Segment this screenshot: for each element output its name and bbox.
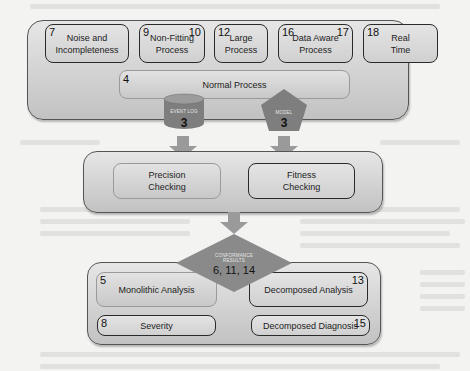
event-log-number: 3 [163, 116, 205, 130]
arrow-down-icon [220, 212, 248, 234]
box-number: 9 [143, 27, 149, 38]
severity-box: 8 Severity [97, 315, 216, 336]
event-log-cylinder: EVENT LOG 3 [163, 93, 205, 131]
box-number: 10 [189, 27, 201, 38]
box-label: Precision Checking [142, 169, 192, 193]
decomposed-diagnosis-box: 15 Decomposed Diagnosis [251, 315, 370, 336]
box-number: 13 [352, 275, 364, 286]
box-number: 18 [367, 27, 379, 38]
box-number: 12 [218, 27, 230, 38]
fitness-checking-box: Fitness Checking [248, 163, 355, 199]
data-aware-process-box: 16 17 Data Aware Process [278, 24, 353, 63]
box-number: 17 [337, 27, 349, 38]
box-label: Fitness Checking [277, 169, 327, 193]
precision-checking-box: Precision Checking [113, 163, 221, 199]
model-pentagon: MODEL 3 [260, 88, 308, 132]
box-label: Data Aware Process [291, 32, 341, 56]
box-label: Noise and Incompleteness [52, 32, 122, 56]
box-number: 5 [100, 275, 106, 286]
model-label: MODEL [260, 110, 308, 115]
conformance-results-label: CONFORMANCE RESULTS [214, 253, 254, 263]
diamond-icon [176, 234, 292, 292]
non-fitting-process-box: 9 10 Non-Fitting Process [139, 24, 205, 63]
box-number: 16 [282, 27, 294, 38]
conformance-results-diamond: CONFORMANCE RESULTS 6, 11, 14 [176, 234, 292, 292]
event-log-label: EVENT LOG [163, 109, 205, 114]
box-number: 15 [354, 318, 366, 329]
box-number: 4 [123, 74, 129, 85]
normal-process-box: 4 Normal Process [119, 70, 350, 99]
box-label: Severity [140, 320, 173, 332]
model-number: 3 [260, 116, 308, 130]
box-number: 8 [101, 318, 107, 329]
box-label: Decomposed Diagnosis [263, 320, 358, 332]
box-label: Real Time [386, 32, 416, 56]
box-label: Normal Process [202, 79, 266, 91]
real-time-box: 18 Real Time [363, 24, 438, 63]
noise-incompleteness-box: 7 Noise and Incompleteness [45, 24, 129, 63]
large-process-box: 12 Large Process [214, 24, 268, 63]
conformance-results-numbers: 6, 11, 14 [176, 264, 292, 276]
box-number: 7 [49, 27, 55, 38]
